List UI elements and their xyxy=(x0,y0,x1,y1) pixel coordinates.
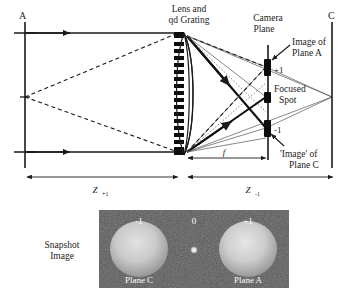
thin-ray-bottom-to-planec xyxy=(187,97,332,152)
snapshot-caption-line1: Snapshot xyxy=(45,240,80,250)
image-of-plane-c-callout: 'Image' of Plane C xyxy=(271,134,319,170)
grating-bar xyxy=(174,77,184,81)
dotted-ray-top xyxy=(187,36,266,112)
image-of-plane-c-line2: Plane C xyxy=(289,160,319,170)
snapshot-blob-plus-one xyxy=(219,221,277,277)
lens-label-line1: Lens and xyxy=(172,4,207,14)
plane-a-dashed-cone xyxy=(25,33,178,152)
z-object-symbol: Z xyxy=(92,185,98,195)
snapshot-order-zero: 0 xyxy=(192,216,197,226)
dashed-ray-a-lower xyxy=(25,97,178,152)
image-of-plane-a-arrow xyxy=(272,45,290,60)
camera-plane-label-line1: Camera xyxy=(253,13,283,23)
snapshot-order-plus-one: +1 xyxy=(243,216,253,226)
image-of-plane-a-line1: Image of xyxy=(292,37,327,47)
snapshot-zero-order-spot xyxy=(191,247,198,254)
lens-shape xyxy=(184,33,193,155)
focal-length-label: f xyxy=(223,147,227,157)
grating-bar xyxy=(174,91,184,95)
grating-bar xyxy=(174,140,184,144)
grating-bar xyxy=(174,112,184,116)
focal-length-dimension: f xyxy=(188,147,266,158)
snapshot-right-plane-label: Plane A xyxy=(234,275,263,285)
z-image-symbol: Z xyxy=(245,185,251,195)
snapshot-blob-minus-one xyxy=(110,221,168,277)
camera-plane-label-line2: Plane xyxy=(253,24,274,34)
grating-bar xyxy=(174,119,184,123)
focused-spot-mark xyxy=(264,92,271,103)
plane-a-label: A xyxy=(19,10,27,21)
grating-bar xyxy=(174,84,184,88)
minus-one-label: -1 xyxy=(274,125,282,135)
snapshot-caption-line2: Image xyxy=(50,251,74,261)
image-of-plane-a-line2: Plane A xyxy=(292,48,322,58)
camera-plane-group xyxy=(264,45,271,160)
optical-diagram-figure: A xyxy=(0,0,347,297)
image-of-plane-a-callout: Image of Plane A xyxy=(272,37,327,60)
thin-ray-minus1-to-planec xyxy=(266,97,332,128)
grating-bar xyxy=(174,105,184,109)
dashed-ray-bottom-to-plus1 xyxy=(187,67,266,152)
focused-spot-line2: Spot xyxy=(279,95,297,105)
image-of-plane-c-arrow xyxy=(271,134,284,146)
lens-right-surface xyxy=(184,33,193,155)
z-object-subscript: +1 xyxy=(102,191,108,197)
image-of-plane-c-line1: 'Image' of xyxy=(280,149,318,159)
plane-c-group: C xyxy=(328,10,335,168)
z-object-dimension: Z +1 xyxy=(27,177,178,197)
snapshot-order-minus-one: -1 xyxy=(135,216,143,226)
plus-one-label: +1 xyxy=(274,65,284,75)
lens-label-line2: qd Grating xyxy=(169,15,210,25)
snapshot-left-plane-label: Plane C xyxy=(125,275,153,285)
dotted-ray-bottom xyxy=(187,83,266,152)
grating-bar xyxy=(174,126,184,130)
focused-spot-line1: Focused xyxy=(274,84,306,94)
grating-bar xyxy=(174,42,184,46)
incoming-rays-group xyxy=(25,33,178,152)
z-image-subscript: -1 xyxy=(255,191,260,197)
rays-from-grating-top xyxy=(187,36,266,128)
grating-bar xyxy=(174,70,184,74)
z-image-dimension: Z -1 xyxy=(188,177,333,197)
grating-bar xyxy=(174,63,184,67)
dashed-ray-a-upper xyxy=(25,33,178,97)
plus-one-order-mark xyxy=(264,59,271,76)
rays-from-grating-bottom xyxy=(187,67,266,152)
snapshot-image-panel: -1 0 +1 Plane C Plane A xyxy=(99,210,289,288)
plane-c-label: C xyxy=(328,10,335,21)
grating-bar xyxy=(174,98,184,102)
ray-diagram-svg: A xyxy=(0,0,347,297)
minus-one-order-mark xyxy=(264,120,271,137)
focused-spot-callout: Focused Spot xyxy=(274,84,306,105)
thin-ray-top-to-focus xyxy=(187,36,266,97)
